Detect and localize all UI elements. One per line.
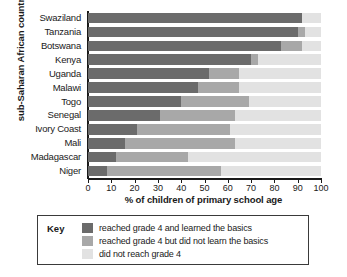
bar-row (88, 53, 321, 67)
legend-swatch-1 (82, 223, 93, 233)
x-axis-tick-label: 30 (153, 183, 163, 193)
legend-item-3: did not reach grade 4 (82, 247, 268, 260)
x-axis-tick-label: 40 (176, 183, 186, 193)
bar-segment-series-1 (88, 27, 298, 38)
y-axis-tick-label: Botswana (41, 39, 81, 53)
bar-segment-series-1 (88, 110, 160, 121)
legend-label-1: reached grade 4 and learned the basics (99, 223, 252, 233)
bar-row (88, 136, 321, 150)
bar-segment-series-2 (137, 124, 230, 135)
y-axis-tick-label: Niger (59, 164, 81, 178)
bar-segment-series-1 (88, 13, 302, 24)
bar-row (88, 150, 321, 164)
bar-row (88, 81, 321, 95)
y-axis-tick-label: Malawi (53, 81, 81, 95)
bar-segment-series-2 (198, 82, 240, 93)
bar-segment-series-1 (88, 82, 198, 93)
legend-label-3: did not reach grade 4 (99, 249, 181, 259)
bar-row (88, 25, 321, 39)
x-axis-tick-label: 80 (269, 183, 279, 193)
x-axis-tick-label: 10 (106, 183, 116, 193)
bar-row (88, 39, 321, 53)
legend-swatch-3 (82, 249, 93, 259)
bar-segment-series-3 (188, 152, 321, 163)
bar-segment-series-2 (160, 110, 235, 121)
bar-segment-series-2 (298, 27, 305, 38)
bar-segment-series-3 (230, 124, 321, 135)
legend-title: Key (47, 223, 64, 234)
x-axis-tick-label: 60 (223, 183, 233, 193)
bar-segment-series-3 (239, 82, 321, 93)
bar-segment-series-3 (258, 54, 321, 65)
x-axis-tick-label: 50 (199, 183, 209, 193)
bar-segment-series-3 (235, 110, 321, 121)
legend-item-1: reached grade 4 and learned the basics (82, 221, 268, 234)
y-axis-tick-label: Uganda (49, 67, 81, 81)
y-axis-tick-label: Madagascar (31, 150, 81, 164)
x-axis-tick-label: 100 (313, 183, 328, 193)
bar-segment-series-1 (88, 96, 181, 107)
bar-segment-series-1 (88, 152, 116, 163)
bar-segment-series-2 (107, 166, 221, 177)
bar-segment-series-2 (181, 96, 249, 107)
y-axis-tick-label: Mali (64, 136, 81, 150)
bar-segment-series-1 (88, 54, 251, 65)
y-axis-tick-label: Ivory Coast (35, 122, 81, 136)
bar-segment-series-3 (239, 68, 321, 79)
bar-segment-series-3 (302, 13, 321, 24)
bar-row (88, 11, 321, 25)
stacked-bar-chart: sub-Saharan African country SwazilandTan… (0, 0, 347, 277)
legend: Key reached grade 4 and learned the basi… (37, 215, 309, 265)
y-axis-category-labels: SwazilandTanzaniaBotswanaKenyaUgandaMala… (16, 11, 84, 178)
bar-segment-series-1 (88, 41, 281, 52)
y-axis-tick-label: Swaziland (39, 11, 81, 25)
legend-item-2: reached grade 4 but did not learn the ba… (82, 234, 268, 247)
x-axis-tick-label: 20 (130, 183, 140, 193)
bar-segment-series-3 (302, 41, 321, 52)
bar-row (88, 164, 321, 178)
x-axis-tick-label: 90 (293, 183, 303, 193)
y-axis-tick-label: Togo (61, 95, 81, 109)
legend-swatch-2 (82, 236, 93, 246)
bar-row (88, 108, 321, 122)
legend-label-2: reached grade 4 but did not learn the ba… (99, 236, 268, 246)
bar-segment-series-1 (88, 124, 137, 135)
x-axis-tick-label: 0 (85, 183, 90, 193)
bar-segment-series-1 (88, 68, 209, 79)
bar-segment-series-2 (251, 54, 258, 65)
bar-segment-series-3 (235, 138, 321, 149)
bar-row (88, 95, 321, 109)
y-axis-tick-label: Kenya (55, 53, 81, 67)
bar-segment-series-2 (281, 41, 302, 52)
x-axis-title: % of children of primary school age (60, 194, 347, 205)
bar-segment-series-1 (88, 166, 107, 177)
bar-segment-series-3 (249, 96, 321, 107)
y-axis-tick-label: Tanzania (45, 25, 81, 39)
bar-segment-series-3 (221, 166, 321, 177)
legend-items: reached grade 4 and learned the basicsre… (82, 221, 268, 260)
bar-segment-series-2 (125, 138, 235, 149)
bar-segment-series-2 (116, 152, 188, 163)
bar-segment-series-1 (88, 138, 125, 149)
x-axis-tick-label: 70 (246, 183, 256, 193)
plot-area (88, 11, 321, 178)
bar-row (88, 122, 321, 136)
bar-segment-series-3 (305, 27, 321, 38)
bar-segment-series-2 (209, 68, 239, 79)
bar-row (88, 67, 321, 81)
y-axis-tick-label: Senegal (48, 108, 81, 122)
